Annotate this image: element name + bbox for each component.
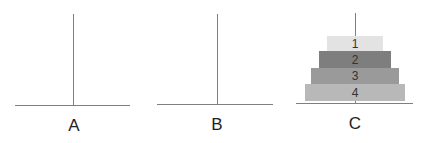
peg-a-pole — [73, 14, 74, 105]
peg-a-label: A — [64, 116, 84, 136]
peg-c-base — [296, 103, 413, 104]
disk-3-label: 3 — [352, 69, 359, 83]
disk-1: 1 — [327, 36, 383, 51]
peg-c-label: C — [345, 114, 365, 134]
disk-2: 2 — [319, 51, 391, 68]
disk-4: 4 — [305, 84, 405, 101]
disk-1-label: 1 — [352, 37, 359, 51]
peg-b-label: B — [207, 115, 227, 135]
disk-2-label: 2 — [352, 53, 359, 67]
disk-3: 3 — [311, 68, 399, 84]
disk-4-label: 4 — [352, 86, 359, 100]
peg-b-pole — [217, 14, 218, 104]
peg-a-base — [15, 105, 130, 106]
peg-b-base — [157, 104, 273, 105]
